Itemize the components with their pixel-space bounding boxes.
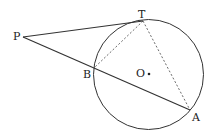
label-p: P	[13, 30, 21, 43]
chord-ta	[143, 21, 190, 110]
label-a: A	[191, 111, 201, 124]
secant-pa	[23, 37, 190, 110]
label-o: O	[136, 67, 145, 80]
label-t: T	[138, 8, 146, 21]
tangent-pt	[23, 21, 143, 37]
label-b: B	[83, 68, 91, 81]
center-dot	[148, 73, 151, 76]
geometry-diagram: P T B A O	[0, 0, 215, 139]
